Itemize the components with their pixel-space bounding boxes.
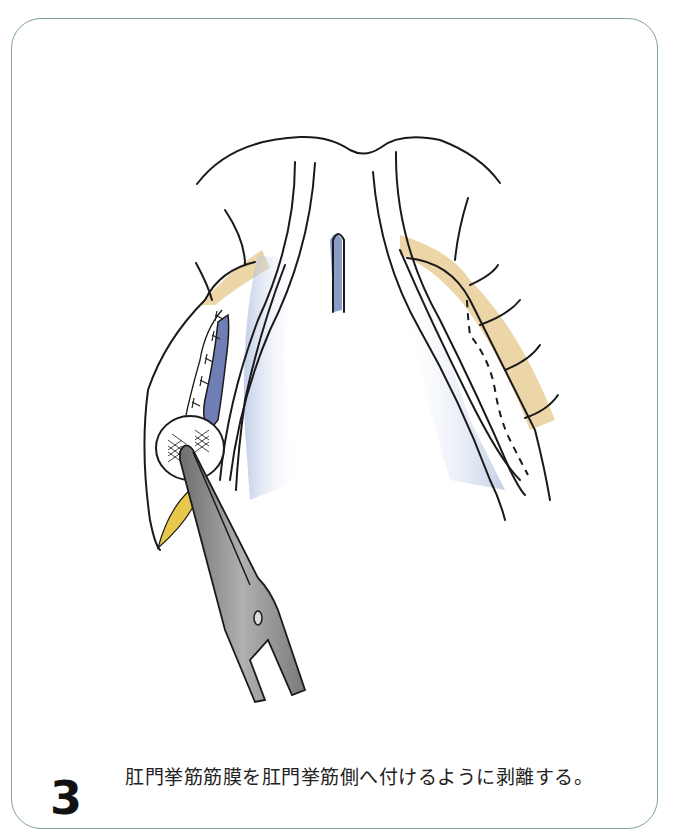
step-caption: 肛門挙筋筋膜を肛門挙筋側へ付けるように剥離する。 [125,764,645,791]
sutured-vessel [185,310,229,430]
tissue-shading [244,234,505,500]
surgical-illustration [0,0,681,740]
step-number: 3 [50,774,82,822]
